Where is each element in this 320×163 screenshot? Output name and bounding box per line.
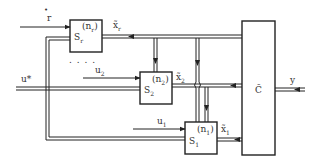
output-xr-label: x̃r [113, 21, 121, 30]
input-ustar-label: u* [21, 75, 31, 84]
ellipsis: . . . . [69, 56, 96, 65]
s2-sub: 2 [150, 90, 154, 97]
input-u2-label: u2 [95, 66, 105, 75]
output-x2-label: x̃2 [176, 73, 185, 82]
x2-sub: 2 [181, 77, 185, 84]
s1-order-open: (n [197, 124, 206, 134]
output-x1-label: x̃1 [221, 125, 230, 134]
output-y-label: y [290, 76, 295, 85]
s1-order-close: ) [210, 124, 214, 134]
s2-order-sub: 2 [161, 79, 165, 86]
u1-sub: 1 [163, 121, 167, 128]
block-sr-order: (nr) [82, 22, 98, 31]
r-text: r [47, 13, 51, 23]
s2-order-open: (n [152, 74, 161, 84]
block-sr-name: Sr [74, 33, 83, 42]
ellipsis-text: . . . . [69, 55, 96, 65]
sr-order-close: ) [94, 21, 98, 31]
input-u1-label: u1 [157, 117, 167, 126]
sr-order-open: (n [82, 21, 91, 31]
s2-order-close: ) [165, 74, 169, 84]
sr-order-sub: r [91, 26, 94, 33]
block-s1-order: (n1) [197, 125, 214, 134]
block-s2-order: (n2) [152, 75, 169, 84]
y-text: y [290, 75, 295, 85]
block-s2-name: S2 [144, 86, 154, 95]
s1-order-sub: 1 [206, 129, 210, 136]
combiner-text: C̃ [255, 85, 262, 95]
u1-text: u [157, 116, 163, 126]
block-s1-name: S1 [189, 137, 199, 146]
combiner-label: C̃ [255, 86, 262, 95]
ustar-text: u* [21, 74, 31, 84]
s1-sub: 1 [195, 141, 199, 148]
u2-sub: 2 [101, 70, 105, 77]
xr-sub: r [118, 25, 121, 32]
input-r-label-text: r [47, 14, 51, 23]
x1-sub: 1 [226, 129, 230, 136]
sr-sub: r [80, 37, 83, 44]
u2-text: u [95, 65, 101, 75]
